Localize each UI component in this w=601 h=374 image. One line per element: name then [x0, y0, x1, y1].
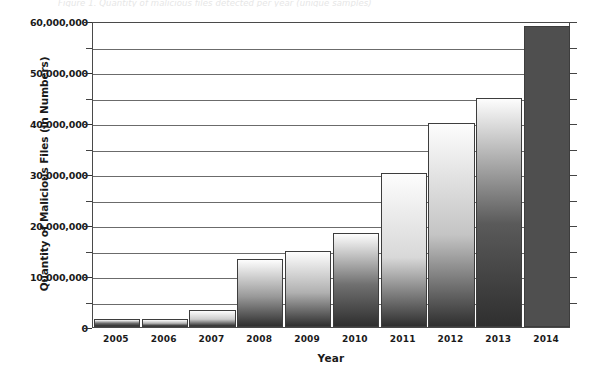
- y-tick-label: 20,000,000: [10, 221, 88, 232]
- x-tick-label: 2006: [151, 334, 177, 344]
- right-axis-tick: [570, 48, 577, 49]
- x-tick-label: 2012: [438, 334, 464, 344]
- clipped-caption: Figure 1. Quantity of malicious files de…: [58, 0, 558, 7]
- x-tick-label: 2010: [342, 334, 368, 344]
- right-axis-tick: [570, 124, 577, 125]
- bar-chart-figure: Figure 1. Quantity of malicious files de…: [0, 0, 601, 374]
- y-major-tick: [84, 73, 92, 74]
- y-major-tick: [84, 175, 92, 176]
- right-axis-tick: [570, 22, 577, 23]
- right-axis-tick: [570, 303, 577, 304]
- bar-series: [93, 23, 569, 327]
- right-axis-tick: [570, 277, 577, 278]
- plot-area: [92, 22, 570, 328]
- x-tick-label: 2009: [294, 334, 320, 344]
- y-tick-label: 0: [10, 323, 88, 334]
- x-tick-label: 2013: [485, 334, 511, 344]
- x-tick-label: 2011: [390, 334, 416, 344]
- bar-2013: [476, 98, 522, 328]
- bar-2005: [94, 319, 140, 327]
- y-tick-label: 60,000,000: [10, 17, 88, 28]
- bar-2008: [237, 259, 283, 327]
- y-minor-tick: [86, 201, 92, 202]
- y-minor-tick: [86, 99, 92, 100]
- y-tick-label: 10,000,000: [10, 272, 88, 283]
- right-axis-tick: [570, 226, 577, 227]
- y-minor-tick: [86, 48, 92, 49]
- x-axis-title: Year: [92, 352, 570, 364]
- y-tick-label: 50,000,000: [10, 68, 88, 79]
- right-axis-tick: [570, 175, 577, 176]
- y-major-tick: [84, 226, 92, 227]
- x-tick-label: 2007: [199, 334, 225, 344]
- y-minor-tick: [86, 150, 92, 151]
- y-major-tick: [84, 328, 92, 329]
- y-major-tick: [84, 22, 92, 23]
- y-tick-label: 30,000,000: [10, 170, 88, 181]
- bar-2009: [285, 251, 331, 328]
- y-major-tick: [84, 277, 92, 278]
- y-major-tick: [84, 124, 92, 125]
- bar-2011: [381, 173, 427, 327]
- y-tick-label: 40,000,000: [10, 119, 88, 130]
- x-tick-label: 2014: [533, 334, 559, 344]
- x-tick-label: 2005: [103, 334, 129, 344]
- bar-2014: [524, 26, 570, 327]
- x-tick-label: 2008: [246, 334, 272, 344]
- bar-2006: [142, 319, 188, 327]
- bar-2010: [333, 233, 379, 327]
- right-axis-tick: [570, 73, 577, 74]
- right-axis-tick: [570, 99, 577, 100]
- right-axis-tick: [570, 150, 577, 151]
- y-axis-tick-labels: 010,000,00020,000,00030,000,00040,000,00…: [6, 0, 88, 374]
- y-minor-tick: [86, 252, 92, 253]
- right-axis-tick: [570, 201, 577, 202]
- y-minor-tick: [86, 303, 92, 304]
- bar-2012: [428, 123, 474, 327]
- right-axis-tick: [570, 252, 577, 253]
- bar-2007: [189, 310, 235, 327]
